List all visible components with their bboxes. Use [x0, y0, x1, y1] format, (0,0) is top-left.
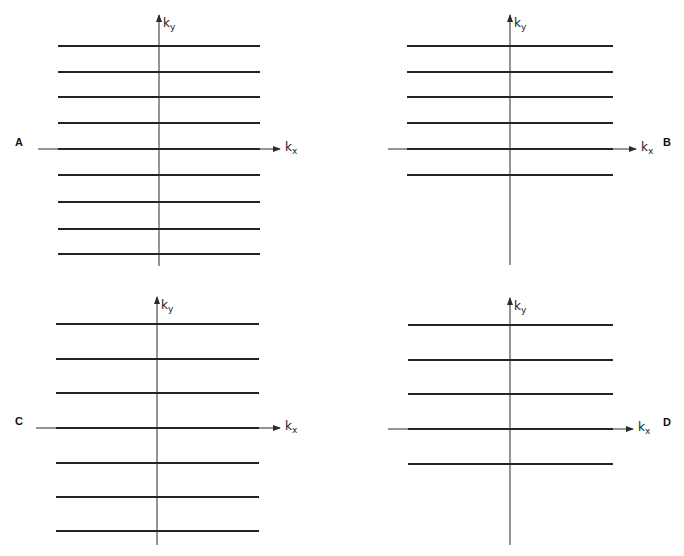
kx-label: kx — [285, 419, 298, 435]
panel-a: kxkyA — [15, 15, 298, 266]
ky-label: ky — [161, 298, 174, 314]
panel-d: kxkyD — [388, 298, 671, 545]
kx-label: kx — [285, 140, 298, 156]
panel-c: kxkyC — [15, 297, 298, 545]
ky-label: ky — [163, 16, 176, 32]
panel-letter-b: B — [663, 136, 671, 148]
ky-label: ky — [514, 16, 527, 32]
ky-label: ky — [514, 299, 527, 315]
panel-letter-a: A — [15, 136, 23, 148]
k-space-diagram: kxkyAkxkyBkxkyCkxkyD — [0, 0, 684, 556]
panel-letter-c: C — [15, 415, 23, 427]
panel-b: kxkyB — [388, 15, 671, 265]
panel-letter-d: D — [663, 416, 671, 428]
kx-label: kx — [638, 420, 651, 436]
kx-label: kx — [641, 140, 654, 156]
